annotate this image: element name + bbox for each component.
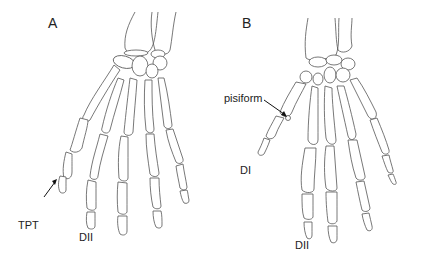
panel-label-b: B [242, 16, 251, 30]
panel-label-a: A [48, 16, 57, 30]
panel-a-hand-skeleton [44, 12, 189, 235]
annotation-dii-a: DII [79, 232, 93, 243]
annotation-tpt: TPT [18, 220, 39, 231]
annotation-di: DI [240, 165, 251, 176]
annotation-dii-b: DII [295, 240, 309, 251]
panel-b-hand-skeleton [258, 18, 396, 243]
figure-drawing [0, 0, 422, 256]
annotation-pisiform: pisiform [224, 93, 263, 104]
hand-skeleton-figure: A TPT DII B pisiform DI DII [0, 0, 422, 256]
